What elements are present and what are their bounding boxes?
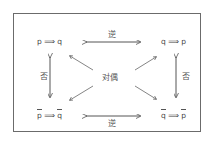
antecedent: p [37,37,42,46]
implies-symbol: ⟹ [168,37,179,46]
diag-upper-right-arrow [135,57,156,70]
converse-label-top: 逆 [108,30,116,39]
diag-lower-right-arrow [135,86,156,99]
negated-consequent: q [57,111,62,121]
antecedent: q [161,37,166,46]
inverse-proposition: p ⟹ q [37,111,62,121]
contrapositive-label-center: 对偶 [102,73,118,82]
contrapositive-proposition: q ⟹ p [161,111,186,121]
diag-upper-left-arrow [70,56,93,70]
consequent: p [181,37,186,46]
inverse-label-right: 否 [180,72,189,80]
inverse-label-left: 否 [38,72,47,80]
negated-consequent: p [181,111,186,121]
converse-proposition: q ⟹ p [161,37,186,47]
diag-lower-left-arrow [70,86,93,100]
consequent: q [57,37,62,46]
negated-antecedent: q [161,111,166,121]
implies-symbol: ⟹ [168,111,179,120]
converse-label-bottom: 逆 [108,119,116,128]
implies-symbol: ⟹ [44,37,55,46]
negated-antecedent: p [37,111,42,121]
original-proposition: p ⟹ q [37,37,62,47]
implies-symbol: ⟹ [44,111,55,120]
